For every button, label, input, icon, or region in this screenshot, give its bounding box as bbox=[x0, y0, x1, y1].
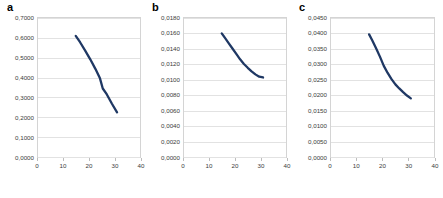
x-tick-label: 0 bbox=[181, 162, 184, 169]
x-tick-label: 40 bbox=[138, 162, 145, 169]
x-tick-label: 20 bbox=[379, 162, 386, 169]
x-tick-label: 10 bbox=[60, 162, 67, 169]
y-tick-label: 0,0160 bbox=[161, 30, 180, 36]
y-axis-labels-a: 0,00000,10000,20000,30000,40000,50000,60… bbox=[4, 17, 36, 158]
plot-wrapper-a: 0,00000,10000,20000,30000,40000,50000,60… bbox=[4, 17, 146, 173]
x-tick-mark bbox=[330, 158, 331, 161]
x-tick-mark bbox=[382, 158, 383, 161]
y-tick-label: 0,0450 bbox=[308, 14, 327, 20]
y-tick-label: 0,0080 bbox=[161, 92, 180, 98]
x-tick-mark bbox=[63, 158, 64, 161]
chart-panel-c: c0,00000,00500,01000,01500,02000,02500,0… bbox=[295, 0, 443, 198]
plot-wrapper-c: 0,00000,00500,01000,01500,02000,02500,03… bbox=[297, 17, 440, 173]
curve-svg-c bbox=[331, 18, 434, 157]
y-tick-label: 0,3000 bbox=[15, 94, 34, 100]
plot-area-b bbox=[183, 17, 287, 158]
y-tick-label: 0,1000 bbox=[15, 134, 34, 140]
y-tick-label: 0,0400 bbox=[308, 30, 327, 36]
x-tick-label: 10 bbox=[353, 162, 360, 169]
x-tick-label: 30 bbox=[405, 162, 412, 169]
x-tick-mark bbox=[209, 158, 210, 161]
y-tick-label: 0,0040 bbox=[161, 123, 180, 129]
data-line-series-c bbox=[369, 34, 411, 98]
y-tick-label: 0,0140 bbox=[161, 46, 180, 52]
x-axis-labels-b: 010203040 bbox=[183, 162, 287, 174]
x-tick-mark bbox=[235, 158, 236, 161]
y-tick-label: 0,4000 bbox=[15, 74, 34, 80]
x-axis-labels-a: 010203040 bbox=[37, 162, 141, 174]
x-tick-mark bbox=[183, 158, 184, 161]
y-tick-label: 0,0350 bbox=[308, 46, 327, 52]
y-tick-label: 0,2000 bbox=[15, 114, 34, 120]
chart-panel-a: a0,00000,10000,20000,30000,40000,50000,6… bbox=[0, 0, 148, 198]
x-tick-mark bbox=[261, 158, 262, 161]
x-tick-label: 30 bbox=[258, 162, 265, 169]
panel-label-b: b bbox=[152, 1, 159, 14]
y-tick-label: 0,0060 bbox=[161, 108, 180, 114]
y-tick-label: 0,0100 bbox=[161, 77, 180, 83]
y-tick-label: 0,0300 bbox=[308, 61, 327, 67]
curve-svg-b bbox=[184, 18, 286, 157]
y-tick-label: 0,5000 bbox=[15, 54, 34, 60]
figure-three-panel-line-charts: a0,00000,10000,20000,30000,40000,50000,6… bbox=[0, 0, 443, 198]
y-tick-label: 0,0000 bbox=[15, 154, 34, 160]
x-tick-mark bbox=[141, 158, 142, 161]
y-tick-label: 0,0250 bbox=[308, 77, 327, 83]
y-axis-labels-c: 0,00000,00500,01000,01500,02000,02500,03… bbox=[297, 17, 329, 158]
x-tick-mark bbox=[115, 158, 116, 161]
x-tick-mark bbox=[37, 158, 38, 161]
data-line-series-b bbox=[222, 33, 263, 77]
x-tick-label: 0 bbox=[328, 162, 331, 169]
x-tick-label: 20 bbox=[232, 162, 239, 169]
x-tick-label: 40 bbox=[432, 162, 439, 169]
y-tick-label: 0,0000 bbox=[161, 154, 180, 160]
x-tick-label: 0 bbox=[35, 162, 38, 169]
x-tick-label: 20 bbox=[86, 162, 93, 169]
x-tick-mark bbox=[287, 158, 288, 161]
y-tick-label: 0,6000 bbox=[15, 34, 34, 40]
x-tick-mark bbox=[435, 158, 436, 161]
y-axis-labels-b: 0,00000,00200,00400,00600,00800,01000,01… bbox=[150, 17, 182, 158]
y-tick-label: 0,0180 bbox=[161, 14, 180, 20]
y-tick-label: 0,0150 bbox=[308, 108, 327, 114]
x-tick-label: 10 bbox=[206, 162, 213, 169]
y-tick-label: 0,0100 bbox=[308, 123, 327, 129]
y-tick-label: 0,0200 bbox=[308, 92, 327, 98]
curve-svg-a bbox=[38, 18, 140, 157]
x-tick-mark bbox=[356, 158, 357, 161]
x-tick-label: 40 bbox=[284, 162, 291, 169]
panel-label-a: a bbox=[7, 1, 13, 14]
x-tick-label: 30 bbox=[112, 162, 119, 169]
y-tick-label: 0,0120 bbox=[161, 61, 180, 67]
chart-panel-b: b0,00000,00200,00400,00600,00800,01000,0… bbox=[148, 0, 295, 198]
x-axis-labels-c: 010203040 bbox=[330, 162, 435, 174]
y-tick-label: 0,0020 bbox=[161, 139, 180, 145]
plot-area-c bbox=[330, 17, 435, 158]
y-tick-label: 0,7000 bbox=[15, 14, 34, 20]
y-tick-label: 0,0000 bbox=[308, 154, 327, 160]
panel-label-c: c bbox=[299, 1, 305, 14]
y-tick-label: 0,0050 bbox=[308, 139, 327, 145]
x-tick-mark bbox=[408, 158, 409, 161]
data-line-series-a bbox=[76, 36, 117, 112]
x-tick-mark bbox=[89, 158, 90, 161]
plot-wrapper-b: 0,00000,00200,00400,00600,00800,01000,01… bbox=[150, 17, 292, 173]
plot-area-a bbox=[37, 17, 141, 158]
